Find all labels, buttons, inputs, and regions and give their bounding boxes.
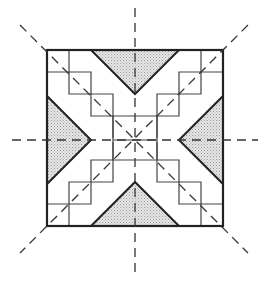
staircase-bottom-right <box>201 204 223 226</box>
staircase-top-left <box>47 50 69 72</box>
diagram-canvas <box>0 0 270 281</box>
shaded-triangle-left <box>47 96 91 184</box>
symmetry-diagram <box>0 0 270 281</box>
